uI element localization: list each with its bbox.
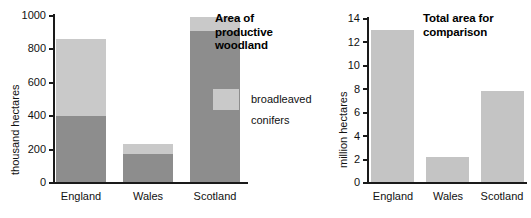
legend-swatch-conifers-icon [213,110,239,131]
bar-wales-broadleaved [123,144,173,154]
chart-title-right: Total area for comparison [423,12,528,39]
y-tick-label-6: 6 [338,107,360,118]
y-axis-line-left [53,14,55,183]
legend-item-broadleaved: broadleaved [213,89,312,110]
bar-wales-conifers [123,154,173,182]
chart-title-right-line2: comparison [423,26,528,40]
y-tick-label-600: 600 [12,77,46,88]
bar-total-scotland [481,91,524,182]
x-label-scotland-right: Scotland [472,191,531,202]
y-tick-label-1000: 1000 [12,10,46,21]
chart-title-left: Area of productive woodland [215,12,325,53]
figure-two-bar-charts: thousand hectares 1000 800 600 400 200 0… [0,0,531,218]
bar-england-broadleaved [56,39,106,117]
x-label-scotland: Scotland [185,191,245,202]
y-tick-label-800: 800 [12,43,46,54]
legend-item-conifers: conifers [213,110,290,131]
x-label-england-right: England [363,191,423,202]
legend-swatch-broadleaved-icon [213,89,239,110]
x-label-wales: Wales [118,191,178,202]
y-axis-line-right [367,17,369,183]
chart-title-right-line1: Total area for [423,12,528,26]
chart-title-left-line3: woodland [215,39,325,53]
x-axis-line-right [367,182,527,184]
bar-england-conifers [56,116,106,182]
y-tick-label-2: 2 [338,154,360,165]
chart-title-left-line1: Area of [215,12,325,26]
bar-total-england [371,30,414,182]
chart-total-area-comparison: million hectares 14 12 10 8 6 4 2 0 Engl… [330,0,531,218]
y-tick-label-0: 0 [12,177,46,188]
chart-productive-woodland: thousand hectares 1000 800 600 400 200 0… [0,0,330,218]
y-tick-label-4: 4 [338,131,360,142]
y-tick-label-14: 14 [338,13,360,24]
y-tick-label-0r: 0 [338,177,360,188]
y-tick-label-8: 8 [338,84,360,95]
y-tick-label-400: 400 [12,110,46,121]
y-tick-label-12: 12 [338,37,360,48]
x-label-wales-right: Wales [418,191,478,202]
legend-label-broadleaved: broadleaved [251,94,312,105]
legend-label-conifers: conifers [251,115,290,126]
y-tick-label-10: 10 [338,60,360,71]
y-axis-title-left: thousand hectares [10,84,21,175]
y-tick-label-200: 200 [12,144,46,155]
chart-title-left-line2: productive [215,26,325,40]
x-axis-line-left [53,182,248,184]
bar-total-wales [426,157,469,182]
x-label-england: England [51,191,111,202]
